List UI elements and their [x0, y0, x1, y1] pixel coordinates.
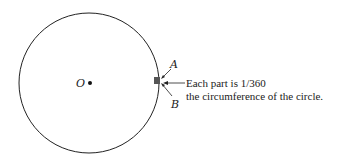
- center-label: O: [76, 77, 85, 90]
- annotation-line-1: Each part is 1/360: [186, 77, 266, 89]
- annotation-line-2: the circumference of the circle.: [186, 90, 323, 102]
- circle-diagram: O A B Each part is 1/360 the circumferen…: [0, 0, 342, 166]
- arc-segment-highlight: [154, 77, 160, 84]
- center-point: [88, 81, 92, 85]
- point-a-label: A: [169, 58, 178, 71]
- point-b-label: B: [170, 98, 179, 111]
